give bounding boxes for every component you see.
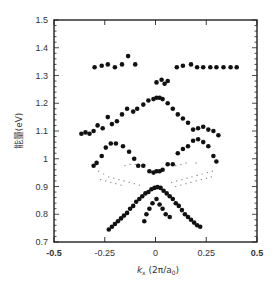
data-point xyxy=(115,119,120,124)
y-tick-label: 1.4 xyxy=(35,43,48,53)
data-point xyxy=(185,162,186,163)
y-tick-label: 1.1 xyxy=(35,126,48,136)
data-point xyxy=(189,62,194,67)
data-point xyxy=(186,120,191,125)
data-point xyxy=(196,162,197,163)
data-point xyxy=(165,79,170,84)
data-point xyxy=(103,173,104,174)
data-point xyxy=(92,65,97,70)
y-tick-label: 0.9 xyxy=(35,182,48,192)
data-point xyxy=(124,165,125,166)
data-point xyxy=(198,224,203,229)
data-point xyxy=(100,126,105,131)
data-point xyxy=(207,172,208,173)
data-point xyxy=(94,161,99,166)
data-point xyxy=(114,141,119,146)
data-point xyxy=(167,215,172,220)
data-point xyxy=(113,65,118,70)
data-point xyxy=(120,62,125,67)
y-tick-label: 0.7 xyxy=(35,237,48,247)
data-point xyxy=(181,116,186,121)
data-point xyxy=(176,112,181,117)
data-point xyxy=(191,127,196,132)
data-point xyxy=(132,157,137,162)
y-tick-label: 1.5 xyxy=(35,15,48,25)
data-point xyxy=(141,163,146,168)
data-point xyxy=(175,65,180,70)
data-point xyxy=(154,80,159,85)
data-point xyxy=(131,204,136,209)
data-point xyxy=(181,147,186,152)
data-point xyxy=(228,65,233,70)
data-point xyxy=(195,65,200,70)
data-point xyxy=(211,154,216,159)
data-point xyxy=(181,179,182,180)
data-point xyxy=(106,115,111,120)
data-point xyxy=(186,144,191,149)
data-point xyxy=(134,183,135,184)
data-point xyxy=(157,202,162,207)
data-point xyxy=(160,168,165,173)
data-point xyxy=(144,212,149,217)
data-point xyxy=(139,185,140,186)
data-point xyxy=(79,132,84,137)
data-point xyxy=(108,176,109,177)
data-point xyxy=(160,206,165,211)
series-inner-inverted-V xyxy=(142,197,172,224)
data-point xyxy=(99,154,104,159)
data-point xyxy=(135,164,136,165)
data-point xyxy=(201,179,202,180)
data-point xyxy=(180,208,185,213)
data-point xyxy=(211,129,216,134)
y-axis-label: 能量(eV) xyxy=(13,113,24,150)
data-point xyxy=(214,159,219,164)
data-point xyxy=(123,180,124,181)
data-point xyxy=(234,65,239,70)
y-tick-labels: 0.70.80.911.11.21.31.41.5 xyxy=(35,15,48,247)
data-point xyxy=(185,183,186,184)
data-point xyxy=(201,65,206,70)
x-tick-label: 0.25 xyxy=(197,248,215,258)
data-point xyxy=(104,145,109,150)
data-point xyxy=(105,180,106,181)
data-point xyxy=(214,65,219,70)
data-point xyxy=(180,185,181,186)
data-point xyxy=(115,183,116,184)
data-point xyxy=(181,64,186,69)
y-tick-label: 1.3 xyxy=(35,71,48,81)
data-point xyxy=(125,107,130,112)
data-point xyxy=(171,197,176,202)
data-point xyxy=(206,144,211,149)
series-faint-dotted-bands xyxy=(98,162,213,187)
data-point xyxy=(208,65,213,70)
data-point xyxy=(180,164,181,165)
data-point xyxy=(130,164,131,165)
data-point xyxy=(175,165,176,166)
data-point xyxy=(176,180,177,181)
data-point xyxy=(159,77,164,82)
data-point xyxy=(150,201,155,206)
data-point xyxy=(118,179,119,180)
data-point xyxy=(186,178,187,179)
data-point xyxy=(121,144,126,149)
data-point xyxy=(113,178,114,179)
data-point xyxy=(206,178,207,179)
y-tick-label: 1.2 xyxy=(35,98,48,108)
data-point xyxy=(141,102,146,107)
data-point xyxy=(201,125,206,130)
data-point xyxy=(147,169,152,174)
data-point xyxy=(131,109,136,114)
data-point xyxy=(83,130,88,135)
data-point xyxy=(221,65,226,70)
series-center-cluster-1.28 xyxy=(154,77,170,86)
data-point xyxy=(147,206,152,211)
data-point xyxy=(211,176,212,177)
data-point xyxy=(196,180,197,181)
data-point xyxy=(206,127,211,132)
data-point xyxy=(191,138,196,143)
series-upper-flat-band xyxy=(92,54,239,70)
data-point xyxy=(125,211,130,216)
series-upper-A-band xyxy=(79,95,221,137)
data-point xyxy=(106,62,111,67)
data-point xyxy=(133,62,138,67)
